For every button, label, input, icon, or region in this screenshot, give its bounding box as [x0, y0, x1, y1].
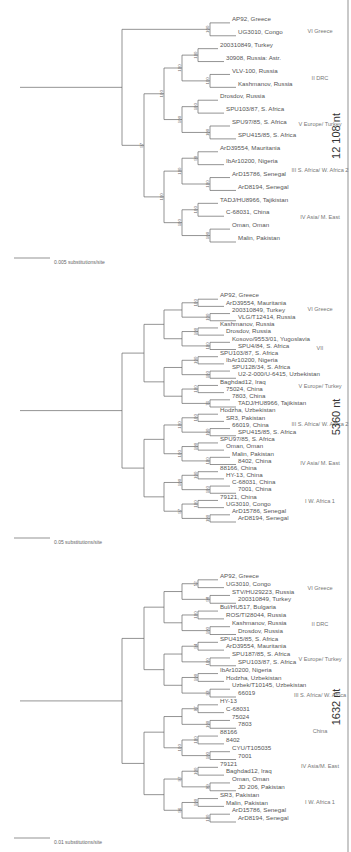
clade-group-label: VII	[317, 345, 324, 351]
taxon-label: Malin, Pakistan	[238, 234, 281, 241]
clade-group-label: II DRC	[312, 75, 329, 81]
taxon-label: ArD39554, Mauritania	[220, 144, 281, 151]
taxon-label: Baghdad12, Iraq	[226, 767, 272, 774]
taxon-label: 200310849, Turkey	[232, 306, 286, 313]
taxon-label: ArD8194, Senegal	[238, 814, 289, 821]
taxon-label: 7001, China	[238, 485, 272, 492]
taxon-label: AP92, Greece	[232, 15, 271, 22]
taxon-label: SPU4/84, S. Africa	[238, 342, 290, 349]
taxon-label: Uzbek/T10145, Uzbekistan	[232, 681, 307, 688]
taxon-label: 8402	[226, 736, 240, 743]
taxon-label: AP92, Greece	[220, 572, 259, 579]
taxon-label: C-68031, China	[232, 478, 276, 485]
panel-5360: ArD8194, SenegalArD15786, SenegalUG3010,…	[14, 291, 348, 545]
taxon-label: Oman, Oman	[232, 775, 270, 782]
taxon-label: UG3010, Congo	[226, 500, 271, 507]
clade-group-label: IV Asia/ M. East	[300, 214, 340, 220]
taxon-label: 66019, China	[232, 421, 269, 428]
taxon-label: ArD15786, Senegal	[232, 806, 286, 813]
taxon-label: 7803, China	[232, 392, 266, 399]
taxon-label: IbAr10200, Nigeria	[220, 666, 272, 673]
taxon-label: UG3010, Congo	[238, 28, 283, 35]
taxon-label: C-68031, China	[226, 208, 270, 215]
clade-group-label: China	[313, 728, 329, 734]
taxon-label: Baghdad12, Iraq	[220, 378, 266, 385]
taxon-label: 66019	[238, 689, 256, 696]
clade-group-label: V Europe/ Turkey	[298, 383, 341, 389]
taxon-label: SPU415/85, S. Africa	[238, 428, 297, 435]
taxon-label: ArD15786, Senegal	[232, 507, 286, 514]
clade-group-label: VI Greece	[307, 585, 332, 591]
taxon-label: IbAr10200, Nigeria	[226, 356, 278, 363]
scale-bar-label: 0.01 substitutions/site	[54, 839, 102, 845]
taxon-label: Oman, Oman	[232, 221, 270, 228]
panel-1632: ArD8194, SenegalArD15786, SenegalMalin, …	[14, 572, 347, 845]
taxon-label: VLG/T12414, Russia	[238, 313, 296, 320]
figure-rotated: ArD8194, SenegalArD15786, SenegalMalin, …	[0, 0, 351, 852]
taxon-label: TADJ/HU8966, Tajikistan	[220, 196, 289, 203]
taxon-label: SPU97/85, S. Africa	[220, 435, 275, 442]
taxon-label: ArD39554, Mauritania	[226, 642, 287, 649]
taxon-label: 200310849, Turkey	[220, 41, 274, 48]
taxon-label: SR3, Pakistan	[226, 414, 266, 421]
taxon-label: SR3, Pakistan	[220, 791, 260, 798]
taxon-label: SPU103/87, S. Africa	[220, 349, 279, 356]
clade-group-label: II DRC	[312, 621, 329, 627]
taxon-label: Hodzha, Uzbekistan	[220, 406, 276, 413]
clade-group-label: I W. Africa 1	[305, 799, 335, 805]
taxon-label: Kosovo/9553/01, Yugoslavia	[232, 335, 311, 342]
clade-group-label: I W. Africa 1	[305, 498, 335, 504]
taxon-label: AP92, Greece	[220, 291, 259, 298]
taxon-label: Drosdov, Russia	[238, 627, 283, 634]
scale-bar-label: 0.05 substitutions/site	[54, 539, 102, 545]
taxon-label: UG3010, Congo	[226, 580, 271, 587]
taxon-label: Drosdov, Russia	[220, 92, 265, 99]
taxon-label: 88166, China	[220, 464, 257, 471]
clade-group-label: III S. Africa/ W. Africa 2	[292, 167, 349, 173]
taxon-label: 75024, China	[226, 385, 263, 392]
clade-group-label: VI Greece	[307, 28, 332, 34]
taxon-label: 7803	[238, 720, 252, 727]
taxon-label: HY-13, China	[226, 471, 263, 478]
clade-group-label: IV Asia/M. East	[301, 763, 339, 769]
taxon-label: C-68031	[226, 705, 250, 712]
clade-group-label: V Europe/ Turkey	[298, 656, 341, 662]
taxon-label: SPU103/87, S. Africa	[238, 658, 297, 665]
taxon-label: Kashmanov, Russia	[232, 619, 287, 626]
taxon-label: SPU187/85, S. Africa	[232, 650, 291, 657]
taxon-label: 7001	[238, 752, 252, 759]
taxon-label: ArD8194, Senegal	[238, 514, 289, 521]
taxon-label: Kashmanov, Russia	[220, 320, 275, 327]
taxon-label: SPU97/85, S. Africa	[232, 118, 287, 125]
taxon-label: HY-13	[220, 697, 238, 704]
clade-group-label: VI Greece	[307, 306, 332, 312]
taxon-label: SPU415/85, S. Africa	[238, 131, 297, 138]
taxon-label: Malin, Pakistan	[226, 799, 269, 806]
taxon-label: JD 206, Pakistan	[238, 783, 285, 790]
sequence-length-label: 5360 nt	[330, 399, 342, 436]
taxon-label: Drosdov, Russia	[226, 327, 271, 334]
panel-12108: Malin, PakistanOman, OmanC-68031, ChinaT…	[14, 15, 348, 265]
taxon-label: ArD8194, Senegal	[238, 183, 289, 190]
sequence-length-label: 12 108 nt	[330, 113, 342, 159]
taxon-label: Oman, Oman	[226, 442, 264, 449]
taxon-label: U2-2-000/U-6415, Uzbekistan	[238, 370, 320, 377]
taxon-label: 200310849, Turkey	[238, 595, 292, 602]
clade-group-label: IV Asia/ M. East	[300, 460, 340, 466]
phylogenetic-trees-figure: ArD8194, SenegalArD15786, SenegalMalin, …	[0, 0, 351, 852]
taxon-label: 8402, China	[238, 457, 272, 464]
scale-bar-label: 0.005 substitutions/site	[54, 259, 105, 265]
taxon-label: 79121, China	[220, 493, 257, 500]
taxon-label: SPU415/85, S. Africa	[220, 635, 279, 642]
taxon-label: 30908, Russia: Astr.	[226, 54, 281, 61]
taxon-label: Malin, Pakistan	[232, 450, 275, 457]
taxon-label: SPU128/34, S. Africa	[232, 363, 291, 370]
taxon-label: 79121	[220, 760, 238, 767]
taxon-label: ROS/TI28044, Russia	[226, 611, 287, 618]
taxon-label: VLV-100, Russia	[232, 67, 278, 74]
taxon-label: Bul/HU517, Bulgaria	[220, 603, 277, 610]
sequence-length-label: 1632 nt	[330, 689, 342, 726]
taxon-label: CYU/T105035	[232, 744, 272, 751]
taxon-label: STV/HU29223, Russia	[232, 588, 295, 595]
taxon-label: 75024	[232, 713, 250, 720]
